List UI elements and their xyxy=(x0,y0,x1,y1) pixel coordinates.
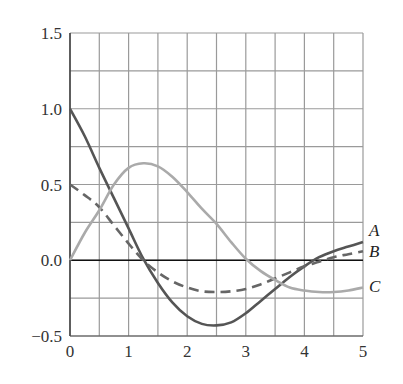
series-label-b: B xyxy=(369,242,380,261)
x-axis-ticks: 012345 xyxy=(66,342,368,361)
series-labels: ABC xyxy=(368,221,381,296)
series-label-c: C xyxy=(369,277,381,296)
y-tick-label: 0.5 xyxy=(41,176,62,195)
line-chart: 1.51.00.50.0−0.5 012345 ABC xyxy=(0,0,403,384)
y-tick-label: −0.5 xyxy=(31,327,62,346)
y-tick-label: 0.0 xyxy=(41,251,62,270)
x-tick-label: 4 xyxy=(300,342,309,361)
x-tick-label: 0 xyxy=(66,342,75,361)
series-label-a: A xyxy=(368,221,380,240)
y-tick-label: 1.5 xyxy=(41,24,62,43)
x-tick-label: 2 xyxy=(183,342,192,361)
y-axis-ticks: 1.51.00.50.0−0.5 xyxy=(31,24,62,346)
x-tick-label: 3 xyxy=(242,342,251,361)
x-tick-label: 1 xyxy=(124,342,133,361)
y-tick-label: 1.0 xyxy=(41,100,62,119)
x-tick-label: 5 xyxy=(359,342,368,361)
